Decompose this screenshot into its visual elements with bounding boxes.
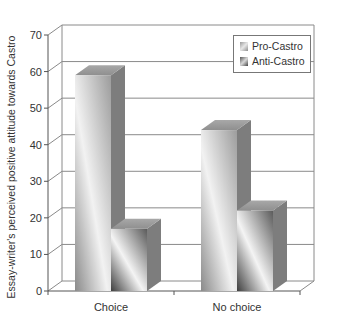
gridline-side — [48, 208, 62, 218]
x-category-label: No choice — [213, 301, 262, 313]
gridline-side — [48, 98, 62, 108]
legend-item-anti-castro: Anti-Castro — [240, 54, 310, 68]
y-tick-label: 40 — [30, 139, 42, 151]
legend-label: Anti-Castro — [252, 55, 305, 67]
y-tick-label: 0 — [36, 285, 42, 297]
y-tick-label: 20 — [30, 212, 42, 224]
y-tick-label: 70 — [30, 29, 42, 41]
bar-side — [147, 219, 161, 291]
y-axis-label: Essay-writer's perceived positive attitu… — [5, 35, 17, 298]
y-tick-label: 10 — [30, 248, 42, 260]
anti-castro-swatch-icon — [240, 57, 248, 66]
bar-front — [75, 75, 111, 291]
bar-front — [201, 130, 237, 291]
legend-item-pro-castro: Pro-Castro — [240, 39, 310, 53]
y-tick-label: 30 — [30, 175, 42, 187]
chart-legend: Pro-Castro Anti-Castro — [233, 35, 311, 73]
y-tick-label: 60 — [30, 66, 42, 78]
bar-anti-castro — [237, 201, 287, 291]
bar-front — [111, 229, 147, 291]
floor-right — [300, 281, 314, 291]
chart-bars — [75, 65, 287, 291]
y-tick-label: 50 — [30, 102, 42, 114]
bar-side — [273, 201, 287, 291]
gridline-side — [48, 62, 62, 72]
gridline-side — [48, 135, 62, 145]
gridline-side — [48, 281, 62, 291]
gridline-side — [48, 25, 62, 35]
legend-label: Pro-Castro — [252, 40, 303, 52]
gridline-side — [48, 171, 62, 181]
pro-castro-swatch-icon — [240, 42, 248, 51]
bar-anti-castro — [111, 219, 161, 291]
bar-front — [237, 211, 273, 291]
gridline-side — [48, 244, 62, 254]
x-category-label: Choice — [94, 301, 128, 313]
